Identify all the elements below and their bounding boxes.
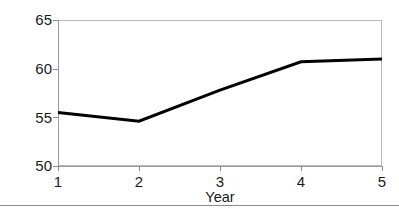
line-chart-figure: 65 60 55 50 1 2 3 4 5 Productivity ($/hr… bbox=[0, 0, 399, 196]
footer-divider bbox=[0, 205, 399, 206]
x-axis-tick-label-3: 3 bbox=[205, 174, 235, 189]
data-line-layer bbox=[58, 20, 382, 166]
y-axis-tick-label-50: 50 bbox=[12, 158, 52, 173]
x-axis-tick bbox=[58, 166, 59, 171]
y-axis-tick-label-55: 55 bbox=[12, 110, 52, 125]
x-axis-tick bbox=[220, 166, 221, 171]
productivity-line-series bbox=[58, 59, 382, 121]
x-axis-tick bbox=[301, 166, 302, 171]
x-axis-tick bbox=[382, 166, 383, 171]
x-axis-tick-label-2: 2 bbox=[124, 174, 154, 189]
x-axis-tick-label-1: 1 bbox=[43, 174, 73, 189]
x-axis-title: Year bbox=[58, 190, 382, 205]
y-axis-tick-label-60: 60 bbox=[12, 61, 52, 76]
y-axis-tick-label-65: 65 bbox=[12, 12, 52, 27]
x-axis-tick-label-4: 4 bbox=[286, 174, 316, 189]
chart-screenshot: 65 60 55 50 1 2 3 4 5 Productivity ($/hr… bbox=[0, 0, 399, 209]
x-axis-tick bbox=[139, 166, 140, 171]
x-axis-tick-label-5: 5 bbox=[367, 174, 397, 189]
